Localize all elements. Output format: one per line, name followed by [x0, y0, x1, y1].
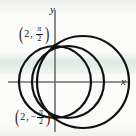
close-paren: ) — [46, 109, 50, 125]
fraction-denominator: 2 — [38, 118, 44, 126]
negative-sign: − — [31, 112, 37, 122]
coord-comma: , — [26, 112, 29, 122]
polar-graph-figure: y x ( 2 , π 2 ) ( 2 , − π 2 ) — [0, 0, 136, 136]
radius-value: 2 — [20, 112, 25, 122]
y-axis-label: y — [50, 4, 55, 15]
intersection-point-top — [53, 44, 58, 49]
close-paren: ) — [45, 26, 49, 42]
fraction-numerator: π — [36, 25, 42, 33]
annotation-top-point: ( 2 , π 2 ) — [18, 25, 50, 44]
open-paren: ( — [15, 109, 19, 125]
coord-comma: , — [30, 29, 33, 39]
theta-fraction: π 2 — [37, 108, 44, 127]
theta-fraction: π 2 — [36, 25, 43, 44]
fraction-numerator: π — [38, 108, 44, 116]
intersection-point-bottom — [53, 115, 58, 120]
radius-value: 2 — [24, 29, 29, 39]
x-axis-label: x — [121, 76, 126, 87]
fraction-denominator: 2 — [36, 35, 42, 43]
annotation-bottom-point: ( 2 , − π 2 ) — [14, 108, 52, 127]
open-paren: ( — [19, 26, 23, 42]
